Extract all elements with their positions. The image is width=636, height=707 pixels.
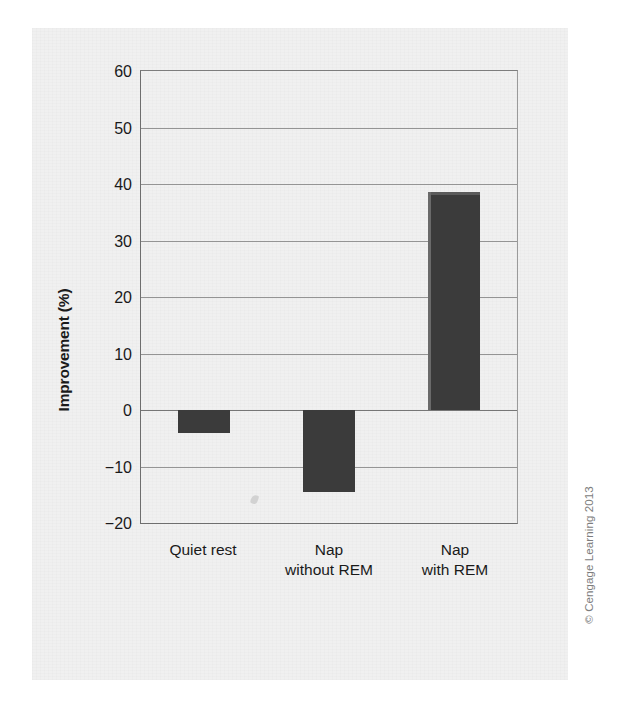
y-tick-label: −20	[105, 515, 132, 533]
bar-nap-with-rem	[428, 192, 480, 410]
bar-top-highlight	[428, 192, 480, 195]
y-tick-label: −10	[105, 459, 132, 477]
plot-area: 6050403020100−10−20	[140, 70, 518, 524]
credit-text: © Cengage Learning 2013	[583, 486, 595, 623]
bar-nap-without-rem	[303, 410, 355, 492]
x-axis-category-label: Quiet rest	[140, 534, 266, 594]
y-axis-title-text: Improvement (%)	[55, 289, 73, 412]
gridline-60: 60	[141, 71, 517, 72]
y-tick-label: 10	[114, 346, 132, 364]
x-axis-labels: Quiet restNapwithout REMNapwith REM	[140, 534, 518, 594]
y-axis-title: Improvement (%)	[52, 250, 76, 450]
y-tick-label: 50	[114, 120, 132, 138]
x-axis-category-label: Napwithout REM	[266, 534, 392, 594]
bar-left-highlight	[428, 192, 431, 410]
y-tick-label: 0	[123, 402, 132, 420]
x-axis-category-line1: Nap	[441, 541, 469, 558]
gridline-40: 40	[141, 184, 517, 185]
x-axis-category-line2: with REM	[392, 560, 518, 580]
y-tick-label: 60	[114, 63, 132, 81]
credit-line: © Cengage Learning 2013	[578, 440, 600, 670]
x-axis-category-line2: without REM	[266, 560, 392, 580]
x-axis-category-line1: Quiet rest	[169, 541, 236, 558]
x-axis-category-label: Napwith REM	[392, 534, 518, 594]
y-tick-label: 40	[114, 176, 132, 194]
figure-page: Improvement (%) 6050403020100−10−20 Quie…	[0, 0, 636, 707]
y-tick-label: 30	[114, 233, 132, 251]
x-axis-category-line1: Nap	[315, 541, 343, 558]
gridline--20: −20	[141, 523, 517, 524]
bar-quiet-rest	[178, 410, 230, 433]
y-tick-label: 20	[114, 289, 132, 307]
gridline-50: 50	[141, 128, 517, 129]
